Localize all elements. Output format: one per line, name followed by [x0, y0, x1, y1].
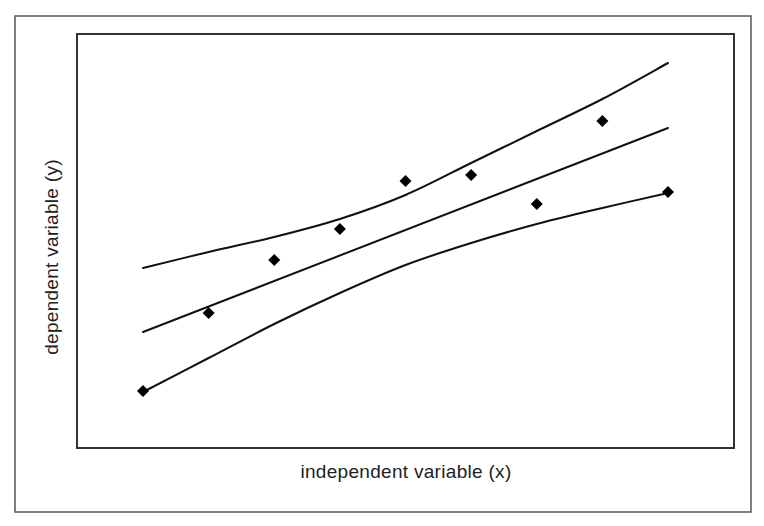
y-axis-label: dependent variable (y) — [41, 159, 62, 355]
x-axis-label: independent variable (x) — [300, 461, 511, 482]
plot-area — [77, 34, 734, 448]
chart: independent variable (x) dependent varia… — [0, 0, 764, 526]
